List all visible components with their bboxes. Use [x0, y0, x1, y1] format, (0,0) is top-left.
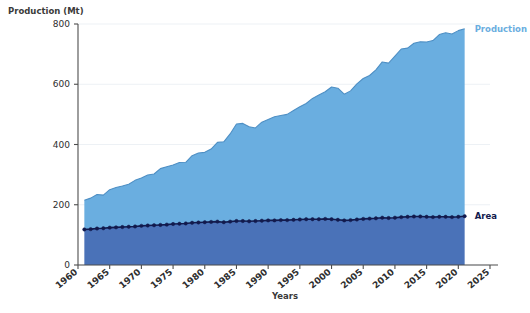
x-tick-label-1985: 1985	[212, 267, 238, 291]
data-point-area	[203, 221, 206, 224]
data-point-area	[355, 218, 358, 221]
series-annotations-group: ProductionArea	[475, 24, 527, 221]
x-axis-title: Years	[271, 291, 298, 301]
x-tick-label-1965: 1965	[85, 267, 111, 291]
data-point-area	[463, 215, 466, 218]
x-tick-label-1990: 1990	[244, 267, 270, 291]
data-point-area	[152, 224, 155, 227]
y-tick-label-800: 800	[53, 19, 70, 29]
data-point-area	[438, 215, 441, 218]
data-point-area	[121, 225, 124, 228]
x-tick-label-2020: 2020	[434, 267, 460, 291]
data-point-area	[190, 221, 193, 224]
data-point-area	[133, 225, 136, 228]
data-point-area	[247, 220, 250, 223]
data-point-area	[266, 219, 269, 222]
data-point-area	[285, 218, 288, 221]
data-point-area	[400, 215, 403, 218]
data-point-area	[425, 215, 428, 218]
data-point-area	[102, 227, 105, 230]
data-point-area	[260, 219, 263, 222]
data-point-area	[381, 216, 384, 219]
data-point-area	[412, 215, 415, 218]
data-point-area	[222, 221, 225, 224]
x-tick-label-2000: 2000	[307, 267, 333, 291]
data-point-area	[349, 218, 352, 221]
data-point-area	[311, 218, 314, 221]
data-point-area	[431, 215, 434, 218]
legend-label-production: Production	[475, 24, 527, 34]
data-point-area	[298, 218, 301, 221]
data-point-area	[95, 227, 98, 230]
data-point-area	[228, 220, 231, 223]
data-point-area	[317, 218, 320, 221]
data-point-area	[140, 224, 143, 227]
data-point-area	[114, 226, 117, 229]
data-point-area	[343, 219, 346, 222]
data-point-area	[209, 220, 212, 223]
data-point-area	[406, 215, 409, 218]
x-tick-label-2005: 2005	[339, 267, 365, 291]
data-point-area	[393, 216, 396, 219]
data-point-area	[89, 227, 92, 230]
x-tick-label-1980: 1980	[180, 267, 206, 291]
data-point-area	[171, 222, 174, 225]
data-point-area	[368, 217, 371, 220]
data-point-area	[184, 222, 187, 225]
data-point-area	[330, 218, 333, 221]
x-tick-label-1995: 1995	[276, 267, 302, 291]
data-point-area	[216, 220, 219, 223]
area-series-group	[84, 29, 464, 265]
data-point-area	[165, 223, 168, 226]
data-point-area	[419, 215, 422, 218]
y-tick-label-600: 600	[53, 79, 70, 89]
y-axis-title: Production (Mt)	[8, 6, 84, 16]
data-point-area	[127, 225, 130, 228]
data-point-area	[444, 215, 447, 218]
data-point-area	[235, 219, 238, 222]
data-point-area	[197, 221, 200, 224]
x-tick-label-2010: 2010	[371, 267, 397, 291]
data-point-area	[336, 218, 339, 221]
data-point-area	[324, 217, 327, 220]
x-tick-label-1960: 1960	[54, 267, 80, 291]
x-tick-label-2025: 2025	[466, 267, 492, 291]
data-point-area	[108, 226, 111, 229]
data-point-area	[450, 215, 453, 218]
area-fill-production	[84, 29, 464, 230]
data-point-area	[273, 219, 276, 222]
data-point-area	[279, 218, 282, 221]
data-point-area	[146, 224, 149, 227]
data-point-area	[159, 223, 162, 226]
y-tick-label-400: 400	[53, 140, 70, 150]
x-tick-label-1970: 1970	[117, 267, 143, 291]
data-point-area	[387, 216, 390, 219]
data-point-area	[304, 218, 307, 221]
area-chart: 0200400600800196019651970197519801985199…	[0, 0, 530, 313]
data-point-area	[457, 215, 460, 218]
x-tick-label-2015: 2015	[402, 267, 428, 291]
legend-label-area: Area	[475, 211, 498, 221]
data-point-area	[178, 222, 181, 225]
y-tick-label-200: 200	[53, 200, 70, 210]
x-tick-label-1975: 1975	[149, 267, 175, 291]
data-point-area	[362, 217, 365, 220]
data-point-area	[292, 218, 295, 221]
data-point-area	[241, 219, 244, 222]
data-point-area	[83, 228, 86, 231]
data-point-area	[374, 217, 377, 220]
data-point-area	[254, 219, 257, 222]
chart-container: 0200400600800196019651970197519801985199…	[0, 0, 530, 313]
